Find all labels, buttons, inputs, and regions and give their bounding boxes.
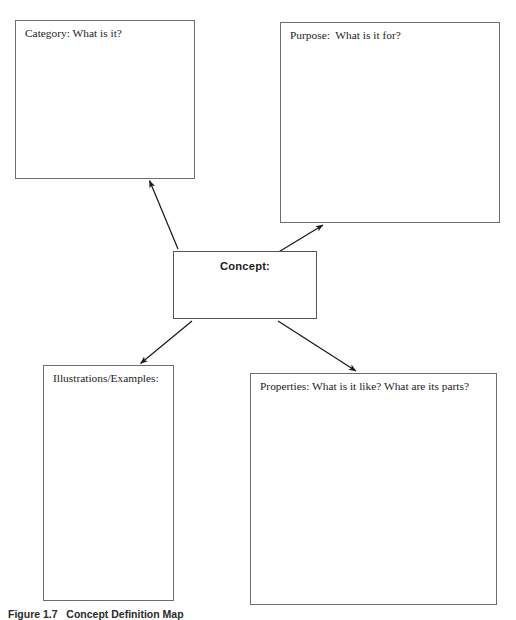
node-concept-label: Concept: bbox=[174, 259, 316, 273]
connector-concept-to-category bbox=[150, 181, 179, 250]
node-category-label: Category: What is it? bbox=[25, 26, 122, 40]
connector-concept-to-properties bbox=[278, 321, 356, 371]
node-illustrations[interactable]: Illustrations/Examples: bbox=[43, 365, 174, 601]
node-purpose-label: Purpose: What is it for? bbox=[290, 28, 401, 42]
figure-caption: Figure 1.7 Concept Definition Map bbox=[8, 608, 184, 620]
node-properties-label: Properties: What is it like? What are it… bbox=[260, 379, 469, 393]
connector-concept-to-illustrations bbox=[141, 321, 193, 364]
node-illustrations-label: Illustrations/Examples: bbox=[53, 371, 159, 385]
connector-concept-to-purpose bbox=[277, 225, 323, 253]
node-concept-center[interactable]: Concept: bbox=[173, 251, 317, 319]
node-purpose[interactable]: Purpose: What is it for? bbox=[280, 22, 500, 223]
node-category[interactable]: Category: What is it? bbox=[15, 20, 195, 179]
node-properties[interactable]: Properties: What is it like? What are it… bbox=[250, 373, 497, 605]
